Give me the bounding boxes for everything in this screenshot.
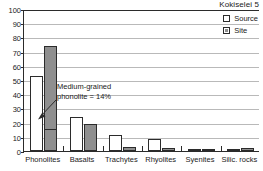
legend-swatch-source-icon <box>223 15 230 22</box>
y-axis-tick-mark-40 <box>21 95 24 96</box>
y-axis-tick-label-90: 90 <box>13 20 21 29</box>
x-axis-label-phonolites: Phonolites <box>25 155 60 164</box>
bar-rhyolites-site <box>162 148 175 151</box>
legend-label-source: Source <box>234 14 258 23</box>
bar-syenites-site <box>202 149 215 151</box>
bar-phonolites-site <box>44 46 57 151</box>
annotation-text: Medium-grained phonolite = 14% <box>57 82 111 102</box>
y-axis-tick-mark-10 <box>21 138 24 139</box>
bar-silic-rocks-source <box>227 149 240 151</box>
bar-syenites-source <box>188 149 201 151</box>
x-axis-label-rhyolites: Rhyolites <box>145 155 176 164</box>
y-axis-tick-mark-30 <box>21 109 24 110</box>
legend-item-site: Site <box>223 26 258 35</box>
y-axis-tick-mark-90 <box>21 24 24 25</box>
gridline-10 <box>24 138 259 139</box>
annotation-marker-line <box>44 129 57 130</box>
y-axis-tick-mark-60 <box>21 67 24 68</box>
gridline-20 <box>24 124 259 125</box>
x-axis-separator-5 <box>221 146 222 151</box>
gridline-80 <box>24 38 259 39</box>
x-axis-separator-3 <box>142 146 143 151</box>
y-axis-tick-label-80: 80 <box>13 34 21 43</box>
chart-legend: Source Site <box>223 14 258 35</box>
x-axis-label-basalts: Basalts <box>70 155 95 164</box>
gridline-30 <box>24 109 259 110</box>
legend-swatch-site-icon <box>223 27 230 34</box>
x-axis-separator-1 <box>63 146 64 151</box>
bar-basalts-source <box>70 117 83 151</box>
y-axis-tick-label-70: 70 <box>13 48 21 57</box>
y-axis-tick-label-50: 50 <box>13 77 21 86</box>
y-axis-tick-label-20: 20 <box>13 119 21 128</box>
annotation-line-2: phonolite = 14% <box>57 92 111 102</box>
bar-basalts-site <box>84 124 97 151</box>
y-axis-tick-label-100: 100 <box>8 6 21 15</box>
y-axis-tick-label-60: 60 <box>13 62 21 71</box>
y-axis-tick-label-30: 30 <box>13 105 21 114</box>
bar-phonolites-source <box>30 76 43 151</box>
legend-label-site: Site <box>234 26 247 35</box>
x-axis-separator-4 <box>181 146 182 151</box>
bar-chart: Kokiselei 5 0102030405060708090100 Sourc… <box>0 0 263 171</box>
x-axis-separator-2 <box>103 146 104 151</box>
gridline-70 <box>24 53 259 54</box>
gridline-60 <box>24 67 259 68</box>
bar-trachytes-site <box>123 147 136 151</box>
x-axis-label-trachytes: Trachytes <box>105 155 138 164</box>
x-axis-label-syenites: Syenites <box>186 155 215 164</box>
y-axis-tick-mark-20 <box>21 124 24 125</box>
y-axis-tick-label-10: 10 <box>13 133 21 142</box>
annotation-line-1: Medium-grained <box>57 82 111 92</box>
bar-trachytes-source <box>109 135 122 151</box>
bar-rhyolites-source <box>148 139 161 151</box>
y-axis-tick-mark-0 <box>21 152 24 153</box>
y-axis-tick-mark-70 <box>21 53 24 54</box>
gridline-100 <box>24 10 259 11</box>
chart-title: Kokiselei 5 <box>219 0 259 9</box>
bar-silic-rocks-site <box>241 148 254 151</box>
y-axis-tick-mark-50 <box>21 81 24 82</box>
y-axis-tick-mark-100 <box>21 10 24 11</box>
x-axis-label-silic-rocks: Silic. rocks <box>221 155 257 164</box>
y-axis-tick-mark-80 <box>21 38 24 39</box>
y-axis-tick-label-40: 40 <box>13 91 21 100</box>
legend-item-source: Source <box>223 14 258 23</box>
